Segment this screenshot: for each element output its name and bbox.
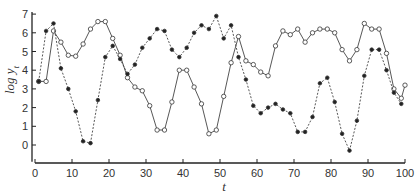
y-tick-label: 0 xyxy=(22,139,28,151)
data-point xyxy=(333,100,337,104)
data-point xyxy=(289,111,293,115)
data-point xyxy=(103,19,107,23)
data-point xyxy=(296,27,300,31)
data-point xyxy=(236,34,240,38)
data-point xyxy=(222,37,226,41)
data-point xyxy=(348,149,352,153)
data-point xyxy=(252,104,256,108)
data-point xyxy=(251,62,255,66)
data-point xyxy=(273,44,277,48)
data-point xyxy=(363,74,367,78)
data-point xyxy=(370,27,374,31)
data-point xyxy=(222,94,226,98)
data-point xyxy=(392,91,396,95)
data-point xyxy=(185,68,189,72)
data-point xyxy=(244,59,248,63)
data-point xyxy=(89,141,93,145)
x-tick-label: 20 xyxy=(103,167,115,179)
data-point xyxy=(111,36,115,40)
y-tick-label: 6 xyxy=(22,27,28,39)
data-point xyxy=(207,132,211,136)
data-point xyxy=(403,83,407,87)
data-point xyxy=(266,74,270,78)
x-tick-label: 40 xyxy=(177,167,189,179)
data-point xyxy=(37,80,41,84)
series-dashed-filled-circles xyxy=(37,14,403,152)
data-point xyxy=(125,75,129,79)
data-point xyxy=(163,29,167,33)
data-point xyxy=(141,46,145,50)
data-point xyxy=(170,100,174,104)
x-axis-title: t xyxy=(222,179,226,194)
data-point xyxy=(59,40,63,44)
data-point xyxy=(296,130,300,134)
data-point xyxy=(155,128,159,132)
data-point xyxy=(170,48,174,52)
data-point xyxy=(148,104,152,108)
data-point xyxy=(266,106,270,110)
data-point xyxy=(281,29,285,33)
x-tick-label: 30 xyxy=(140,167,152,179)
data-point xyxy=(177,68,181,72)
data-point xyxy=(59,67,63,71)
data-point xyxy=(148,37,152,41)
data-point xyxy=(362,21,366,25)
data-point xyxy=(178,55,182,59)
data-point xyxy=(311,115,315,119)
data-point xyxy=(44,79,48,83)
x-tick-label: 0 xyxy=(32,167,38,179)
data-point xyxy=(96,19,100,23)
data-point xyxy=(81,139,85,143)
data-point xyxy=(74,54,78,58)
data-point xyxy=(126,72,130,76)
data-point xyxy=(96,98,100,102)
data-point xyxy=(259,70,263,74)
x-tick-label: 50 xyxy=(214,167,226,179)
data-point xyxy=(133,63,137,67)
x-tick-label: 60 xyxy=(251,167,263,179)
data-point xyxy=(229,24,233,28)
y-tick-label: 5 xyxy=(22,46,28,58)
data-point xyxy=(288,32,292,36)
x-tick-label: 90 xyxy=(362,167,374,179)
x-tick-label: 100 xyxy=(396,167,414,179)
data-point xyxy=(340,47,344,51)
data-point xyxy=(81,42,85,46)
data-point xyxy=(303,130,307,134)
data-point xyxy=(370,48,374,52)
data-point xyxy=(384,51,388,55)
data-point xyxy=(325,27,329,31)
data-point xyxy=(244,78,248,82)
data-point xyxy=(199,102,203,106)
data-point xyxy=(355,47,359,51)
x-tick-label: 10 xyxy=(66,167,78,179)
data-point xyxy=(399,96,403,100)
data-point xyxy=(215,14,219,18)
y-axis-title-main: log y xyxy=(2,68,17,94)
data-point xyxy=(133,85,137,89)
data-point xyxy=(111,44,115,48)
data-point xyxy=(88,27,92,31)
data-point xyxy=(310,31,314,35)
y-axis-title: log yt xyxy=(2,65,21,94)
data-point xyxy=(355,119,359,123)
data-point xyxy=(66,53,70,57)
data-point xyxy=(229,61,233,65)
y-tick-label: 4 xyxy=(22,64,28,76)
data-point xyxy=(340,132,344,136)
data-point xyxy=(185,46,189,50)
data-point xyxy=(200,24,204,28)
data-point xyxy=(214,128,218,132)
y-axis: 01234567 xyxy=(22,8,36,162)
data-point xyxy=(155,27,159,31)
data-point xyxy=(318,27,322,31)
data-point xyxy=(385,68,389,72)
y-tick-label: 2 xyxy=(22,102,28,114)
x-axis: 0102030405060708090100 xyxy=(32,159,414,179)
series-layer xyxy=(37,14,408,152)
data-point xyxy=(303,40,307,44)
data-point xyxy=(274,102,278,106)
y-axis-title-sub: t xyxy=(11,65,21,68)
data-point xyxy=(377,27,381,31)
data-point xyxy=(237,55,241,59)
